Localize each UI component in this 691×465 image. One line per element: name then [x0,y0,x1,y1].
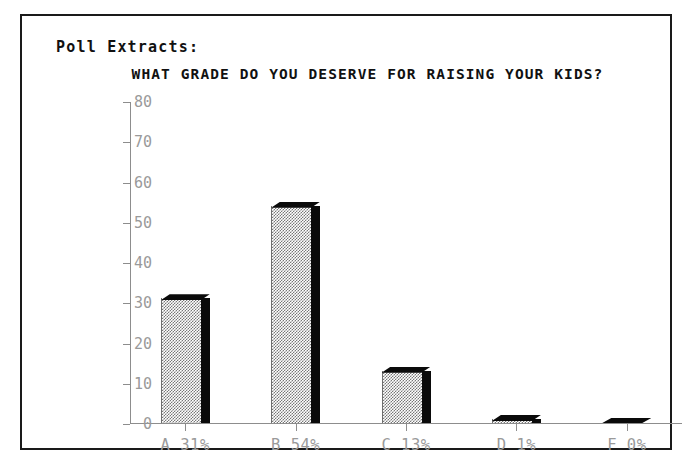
y-axis-tick-label: 10 [134,375,152,393]
chart-title: WHAT GRADE DO YOU DESERVE FOR RAISING YO… [22,66,691,82]
y-axis-tick-label: 70 [134,133,152,151]
y-axis-tick-label: 30 [134,294,152,312]
bar-front-face [161,298,201,423]
bar-top-face [602,418,651,423]
y-axis-tick [123,223,130,224]
y-axis-tick [123,183,130,184]
x-axis-tick [627,424,628,431]
bar-front-face [382,371,422,423]
bar [602,417,651,423]
y-axis-tick-label: 80 [134,93,152,111]
poll-extract-frame: Poll Extracts: WHAT GRADE DO YOU DESERVE… [20,14,672,450]
y-axis-tick [123,344,130,345]
y-axis-tick [123,263,130,264]
y-axis-labels: 01020304050607080 [114,102,152,424]
y-axis-tick-label: 20 [134,335,152,353]
bar-side-face [422,371,431,423]
bar [271,206,320,423]
y-axis-tick [123,384,130,385]
x-axis-tick [406,424,407,431]
bar [161,298,210,423]
y-axis-tick-label: 0 [143,415,152,433]
y-axis-tick [123,303,130,304]
y-axis-tick-label: 60 [134,174,152,192]
page-title: Poll Extracts: [56,38,199,56]
y-axis-tick [123,424,130,425]
x-axis-tick [185,424,186,431]
x-axis-tick-label: A 31% [161,436,210,454]
bar-front-face [271,206,311,423]
bar-side-face [311,206,320,423]
screenshot-root: Poll Extracts: WHAT GRADE DO YOU DESERVE… [0,0,691,465]
x-axis-tick [516,424,517,431]
x-axis-tick-label: D 1% [497,436,536,454]
x-axis-tick-label: C 13% [381,436,430,454]
bar [382,371,431,423]
bar-chart-plot-area: 01020304050607080 A 31%B 54%C 13%D 1%F 0… [130,102,682,424]
x-axis-tick-label: B 54% [271,436,320,454]
y-axis-tick-label: 50 [134,214,152,232]
x-axis-tick [296,424,297,431]
bar-side-face [201,298,210,423]
y-axis-tick-label: 40 [134,254,152,272]
y-axis-tick [123,142,130,143]
x-axis-tick-label: F 0% [607,436,646,454]
y-axis-tick [123,102,130,103]
bar [492,417,541,423]
